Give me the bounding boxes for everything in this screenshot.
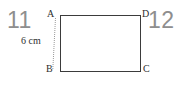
- rectangle-shape: [60, 15, 141, 72]
- vertex-label-c: C: [143, 64, 150, 74]
- dimension-leader-line: [52, 18, 56, 69]
- vertex-label-a: A: [47, 9, 54, 19]
- side-length-label: 6 cm: [21, 36, 41, 46]
- page-number-right: 12: [148, 9, 175, 32]
- vertex-label-b: B: [46, 64, 53, 74]
- page-number-left: 11: [7, 9, 32, 32]
- vertex-label-d: D: [142, 9, 149, 19]
- geometry-figure: 11 12 A D B C 6 cm: [0, 0, 178, 105]
